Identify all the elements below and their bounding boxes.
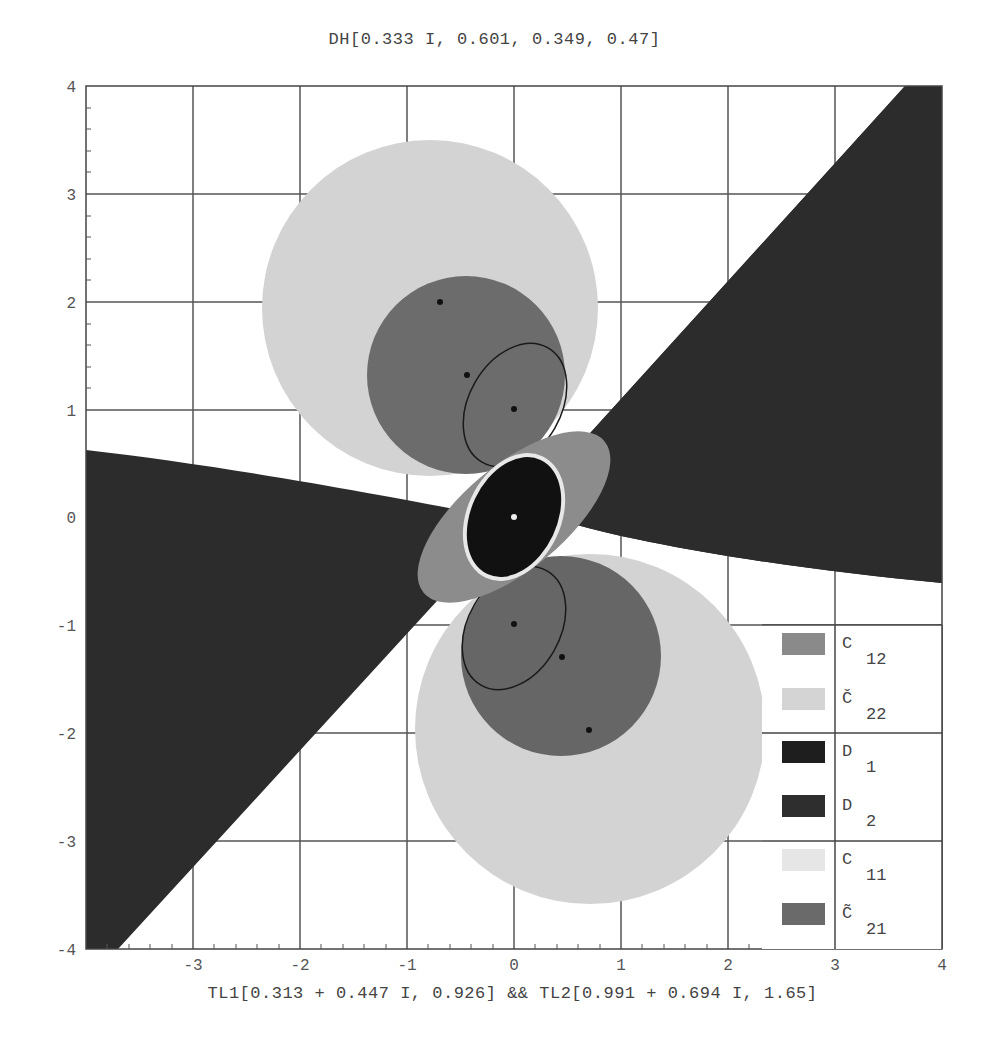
svg-text:-1: -1 (397, 957, 416, 975)
x-axis-label: TL1[0.313 + 0.447 I, 0.926] && TL2[0.991… (0, 984, 989, 1003)
legend-swatch (782, 849, 825, 871)
svg-text:2: 2 (66, 295, 76, 313)
svg-text:2: 2 (723, 957, 733, 975)
svg-text:-3: -3 (57, 834, 76, 852)
svg-text:D: D (842, 742, 852, 761)
svg-text:-2: -2 (57, 726, 76, 744)
svg-text:12: 12 (866, 650, 886, 669)
legend-swatch (782, 741, 825, 763)
svg-text:0: 0 (509, 957, 519, 975)
svg-text:0: 0 (66, 510, 76, 528)
svg-text:1: 1 (866, 758, 876, 777)
legend-swatch (782, 688, 825, 710)
svg-text:11: 11 (866, 866, 886, 885)
svg-text:C: C (842, 850, 852, 869)
legend: C 12 Č 22 D 1 D 2 C 11 C̃ 21 (762, 625, 942, 949)
svg-text:22: 22 (866, 705, 886, 724)
svg-text:3: 3 (830, 957, 840, 975)
svg-text:C: C (842, 634, 852, 653)
svg-text:4: 4 (66, 79, 76, 97)
svg-text:1: 1 (616, 957, 626, 975)
svg-text:21: 21 (866, 920, 886, 939)
svg-text:-2: -2 (290, 957, 309, 975)
svg-text:3: 3 (66, 187, 76, 205)
svg-text:4: 4 (937, 957, 947, 975)
svg-text:2: 2 (866, 812, 876, 831)
x-axis-labels: -3 -2 -1 0 1 2 3 4 (183, 957, 946, 975)
y-axis-labels: 4 3 2 1 0 -1 -2 -3 -4 (57, 79, 76, 960)
svg-text:-4: -4 (57, 942, 76, 960)
svg-text:Č: Č (842, 689, 852, 708)
svg-text:C̃: C̃ (842, 903, 852, 923)
legend-swatch (782, 795, 825, 817)
svg-text:-3: -3 (183, 957, 202, 975)
svg-text:D: D (842, 796, 852, 815)
region-plot: 4 3 2 1 0 -1 -2 -3 -4 -3 -2 -1 0 1 2 3 4… (0, 0, 989, 1056)
svg-text:1: 1 (66, 403, 76, 421)
legend-swatch (782, 633, 825, 655)
legend-swatch (782, 903, 825, 925)
svg-text:-1: -1 (57, 618, 76, 636)
